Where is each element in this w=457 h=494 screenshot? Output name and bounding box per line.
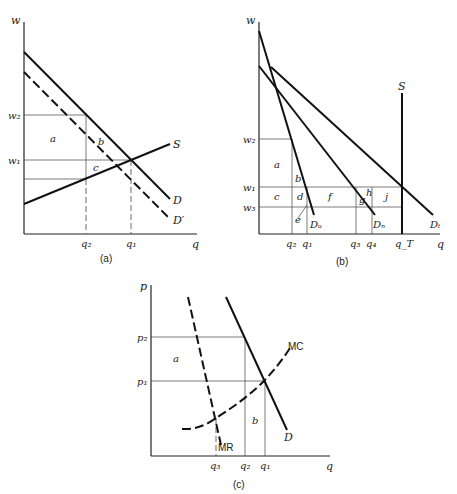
- x-axis-label: q: [437, 238, 444, 251]
- tick-q1: q₁: [260, 460, 270, 471]
- y-axis-label: w: [246, 14, 256, 27]
- panel-b: w q w₂ w₁ w₃ q₂ q₁ q₃ q₄ q_T S Dᵤ Dₙ Dₜ …: [243, 14, 444, 267]
- tick-q2: q₂: [286, 238, 296, 249]
- area-b: b: [295, 173, 301, 184]
- tick-w2: w₂: [243, 134, 256, 145]
- label-MR: MR: [218, 442, 234, 453]
- area-b: b: [252, 415, 258, 426]
- tick-qT: q_T: [395, 238, 414, 250]
- tick-p1: p₁: [137, 376, 147, 387]
- caption-a: (a): [100, 253, 112, 264]
- label-Du: Dᵤ: [309, 219, 322, 230]
- label-Dn: Dₙ: [372, 219, 385, 230]
- figure: w q w₂ w₁ q₂ q₁ S D D′ a b c (a) w q w₂ …: [0, 0, 457, 494]
- label-S: S: [398, 80, 406, 93]
- demand-curve-D-prime: [24, 72, 170, 219]
- area-c: c: [274, 191, 280, 202]
- tick-w1: w₁: [8, 155, 21, 166]
- tick-q3: q₃: [210, 460, 220, 471]
- tick-q2: q₂: [240, 460, 250, 471]
- demand-curve-D: [24, 52, 170, 199]
- label-D: D: [172, 194, 182, 207]
- area-j: j: [383, 191, 388, 202]
- panel-c: p q p₂ p₁ q₃ q₂ q₁ MC MR D a b (c): [137, 280, 333, 490]
- area-f: f: [327, 191, 334, 202]
- demand-curve-Dt: [271, 67, 433, 215]
- label-D: D: [283, 431, 293, 444]
- x-axis-label: q: [326, 460, 333, 473]
- tick-q1: q₁: [126, 238, 136, 249]
- area-g: g: [359, 194, 365, 205]
- area-a: a: [50, 133, 56, 144]
- y-axis-label: w: [11, 14, 21, 27]
- label-MC: MC: [288, 341, 304, 352]
- area-c: c: [93, 162, 99, 173]
- supply-curve-S: [24, 144, 170, 204]
- area-d: d: [297, 191, 303, 202]
- caption-b: (b): [336, 256, 348, 267]
- tick-w1: w₁: [243, 182, 256, 193]
- tick-w2: w₂: [8, 110, 21, 121]
- label-Dt: Dₜ: [429, 219, 441, 230]
- caption-c: (c): [233, 479, 245, 490]
- panel-a: w q w₂ w₁ q₂ q₁ S D D′ a b c (a): [8, 14, 199, 264]
- demand-curve-Du: [259, 31, 314, 215]
- area-a: a: [173, 353, 179, 364]
- x-axis-label: q: [192, 238, 199, 251]
- label-S: S: [173, 138, 181, 151]
- area-e: e: [295, 214, 301, 225]
- tick-q1: q₁: [302, 238, 312, 249]
- y-axis-label: p: [140, 280, 147, 293]
- area-b: b: [98, 136, 104, 147]
- label-D-prime: D′: [172, 214, 185, 227]
- tick-p2: p₂: [137, 332, 147, 343]
- area-a: a: [274, 159, 280, 170]
- tick-q4: q₄: [366, 238, 376, 249]
- tick-w3: w₃: [243, 202, 256, 213]
- tick-q2: q₂: [81, 238, 91, 249]
- area-h: h: [366, 187, 372, 198]
- marginal-cost-curve-MC: [182, 345, 292, 429]
- tick-q3: q₃: [350, 238, 360, 249]
